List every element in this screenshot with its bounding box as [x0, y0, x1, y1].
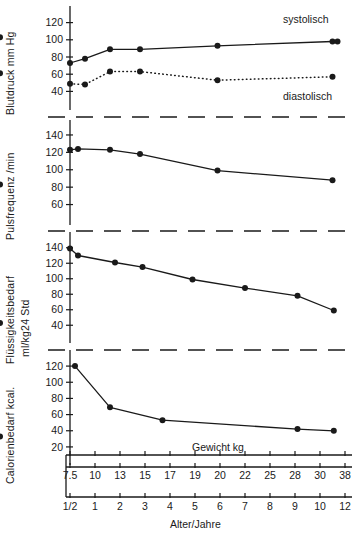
data-point	[137, 46, 143, 52]
data-point	[107, 147, 113, 153]
panel3-y-tick-label: 80	[51, 288, 63, 300]
panel1-y-tick-label: 40	[51, 85, 63, 97]
age-tick-label: 2	[117, 500, 123, 512]
age-tick-label: 5	[192, 500, 198, 512]
age-tick-label: 12	[339, 500, 351, 512]
panel4-y-tick-label: 60	[51, 408, 63, 420]
systolic-annotation: systolisch	[283, 13, 329, 25]
panel4-y-tick-label: 40	[51, 424, 63, 436]
data-point	[137, 69, 143, 75]
age-tick-label: 7	[242, 500, 248, 512]
data-point	[82, 82, 88, 88]
panel3-y-tick-label: 60	[51, 303, 63, 315]
data-point	[0, 182, 3, 188]
age-axis-title: Alter/Jahre	[170, 518, 221, 530]
weight-tick-label: 22	[239, 469, 251, 481]
age-tick-label: 4	[167, 500, 173, 512]
panel4-y-axis-title: Calorienbedarf kcal.	[4, 387, 16, 484]
data-point	[140, 264, 146, 270]
data-point	[82, 56, 88, 62]
weight-tick-label: 25	[264, 469, 276, 481]
age-tick-label: 6	[217, 500, 223, 512]
panel3-y-tick-label: 140	[45, 241, 63, 253]
clinical-growth-chart-figure: 4060801001206080100120140406080100120140…	[0, 0, 357, 535]
panel1-y-tick-label: 120	[45, 16, 63, 28]
weight-tick-label: 30	[314, 469, 326, 481]
weight-tick-label: 13	[114, 469, 126, 481]
data-point	[330, 74, 336, 80]
data-point	[107, 46, 113, 52]
data-point	[160, 417, 166, 423]
data-point	[335, 39, 341, 45]
data-point	[67, 246, 73, 252]
data-point	[72, 363, 78, 369]
data-point	[112, 260, 118, 266]
diastolic-annotation: diastolisch	[283, 90, 332, 102]
data-point	[75, 253, 81, 259]
data-point	[330, 177, 336, 183]
weight-tick-label: 10	[89, 469, 101, 481]
weight-tick-label: 17	[164, 469, 176, 481]
data-point	[295, 293, 301, 299]
panel2-y-tick-label: 60	[51, 198, 63, 210]
weight-tick-label: 19	[189, 469, 201, 481]
data-point	[331, 308, 337, 314]
data-point	[67, 81, 73, 87]
age-tick-label: 10	[314, 500, 326, 512]
panel4-y-tick-label: 100	[45, 376, 63, 388]
data-point	[75, 146, 81, 152]
weight-tick-label: 7.5	[63, 469, 78, 481]
weight-tick-label: 28	[289, 469, 301, 481]
age-tick-label: 1	[92, 500, 98, 512]
weight-tick-label: 20	[214, 469, 226, 481]
age-tick-label: 3	[142, 500, 148, 512]
panel4-y-tick-label: 80	[51, 392, 63, 404]
panel2-y-tick-label: 100	[45, 163, 63, 175]
data-point	[0, 34, 3, 40]
series-line-calorienbedarf	[75, 366, 334, 431]
panel2-y-tick-label: 140	[45, 129, 63, 141]
weight-axis-title: Gewicht kg	[192, 441, 244, 453]
data-point	[67, 60, 73, 66]
data-point	[107, 404, 113, 410]
panel2-y-axis-title: Pulsfrequenz /min	[4, 153, 16, 240]
weight-tick-label: 38	[339, 469, 351, 481]
data-point	[0, 70, 3, 76]
series-line-fl-ssigkeitsbedarf	[70, 249, 334, 311]
panel1-y-tick-label: 80	[51, 51, 63, 63]
data-point	[137, 151, 143, 157]
panel3-y-tick-label: 120	[45, 257, 63, 269]
age-tick-label: 8	[267, 500, 273, 512]
data-point	[0, 433, 3, 439]
data-point	[242, 285, 248, 291]
panel1-y-tick-label: 60	[51, 68, 63, 80]
data-point	[295, 426, 301, 432]
data-point	[190, 277, 196, 283]
panel3-y-axis-subtitle: ml/kg24 Std	[19, 299, 31, 357]
data-point	[67, 147, 73, 153]
panel4-y-tick-label: 20	[51, 441, 63, 453]
data-point	[215, 43, 221, 49]
weight-tick-label: 15	[139, 469, 151, 481]
panel3-y-tick-label: 100	[45, 272, 63, 284]
age-tick-label: 9	[292, 500, 298, 512]
panel2-y-tick-label: 120	[45, 146, 63, 158]
panel2-y-tick-label: 80	[51, 181, 63, 193]
data-point	[107, 69, 113, 75]
panel4-y-tick-label: 120	[45, 360, 63, 372]
data-point	[215, 77, 221, 83]
panel3-y-tick-label: 40	[51, 319, 63, 331]
series-line-pulsfrequenz	[70, 149, 333, 180]
chart-canvas: 4060801001206080100120140406080100120140…	[0, 0, 357, 535]
data-point	[215, 168, 221, 174]
panel1-y-axis-title: Blutdruck mm Hg	[4, 31, 16, 115]
panels-group: 4060801001206080100120140406080100120140…	[0, 6, 352, 512]
age-tick-label: 1/2	[63, 500, 78, 512]
data-point	[331, 428, 337, 434]
panel3-y-axis-title: Flüssigkeitsbedarf	[4, 276, 16, 364]
data-point	[0, 320, 3, 326]
panel1-y-tick-label: 100	[45, 33, 63, 45]
